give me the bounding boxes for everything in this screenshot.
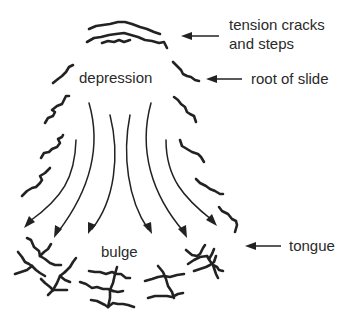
label-bulge: bulge (101, 243, 138, 261)
label-depression: depression (79, 69, 152, 87)
label-root-of-slide: root of slide (251, 70, 329, 88)
landslide-diagram (0, 0, 356, 327)
label-tongue: tongue (289, 237, 335, 255)
flow-arrows (24, 103, 217, 238)
tension-cracks (87, 22, 167, 48)
label-tension-cracks-line1: tension cracks (229, 16, 325, 34)
left-flank-cracks (22, 96, 69, 196)
right-flank-cracks (174, 97, 237, 232)
label-tension-cracks-line2: and steps (229, 35, 294, 53)
